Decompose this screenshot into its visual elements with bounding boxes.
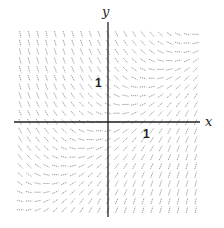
slope-segment xyxy=(157,77,163,78)
slope-segment xyxy=(184,59,190,62)
slope-segment xyxy=(132,137,136,142)
slope-segment xyxy=(79,165,85,168)
slope-segment xyxy=(19,84,21,90)
slope-segment xyxy=(97,155,102,159)
slope-segment xyxy=(132,129,137,133)
slope-segment xyxy=(18,154,22,159)
slope-segment xyxy=(114,94,120,97)
slope-segment xyxy=(88,93,92,98)
slope-segment xyxy=(44,146,49,150)
slope-segment xyxy=(124,172,127,178)
slope-segment xyxy=(54,93,57,99)
slope-segment xyxy=(46,49,48,55)
slope-segment xyxy=(140,68,146,71)
slope-segment xyxy=(159,128,162,133)
slope-segment xyxy=(149,50,154,54)
slope-segment xyxy=(186,198,188,204)
slope-segment xyxy=(97,67,100,72)
slope-segment xyxy=(54,66,56,72)
slope-segment xyxy=(167,85,172,89)
slope-segment xyxy=(158,41,163,45)
slope-segment xyxy=(87,148,93,149)
slope-segment xyxy=(132,40,136,45)
slope-segment xyxy=(194,102,197,108)
slope-segment xyxy=(158,50,164,53)
slope-segment xyxy=(142,163,145,169)
slope-segment xyxy=(193,67,198,71)
slope-segment xyxy=(37,57,39,63)
slope-segment xyxy=(133,163,136,169)
slope-segment xyxy=(19,93,21,99)
slope-segment xyxy=(62,102,65,107)
slope-segment xyxy=(28,40,30,46)
slope-segment xyxy=(194,93,197,98)
slope-segment xyxy=(63,58,65,64)
slope-segment xyxy=(158,32,163,36)
slope-segment xyxy=(89,58,92,64)
slope-segment xyxy=(63,66,65,72)
slope-segment xyxy=(160,189,162,195)
slope-segment xyxy=(158,102,163,106)
slope-segment xyxy=(79,111,84,115)
slope-segment xyxy=(123,137,128,141)
slope-segment xyxy=(98,207,101,213)
slope-segment xyxy=(72,58,74,64)
slope-segment xyxy=(141,50,146,54)
slope-segment xyxy=(114,104,120,105)
slope-segment xyxy=(63,40,65,46)
slope-segment xyxy=(53,208,58,212)
y-axis-label: y xyxy=(101,4,110,19)
slope-segment xyxy=(63,84,66,90)
slope-segment xyxy=(80,58,83,64)
slope-segment xyxy=(193,50,199,53)
slope-segment xyxy=(88,102,93,106)
slope-segment xyxy=(35,208,41,211)
slope-segment xyxy=(142,207,144,213)
slope-segment xyxy=(149,41,154,45)
slope-segment xyxy=(98,198,101,204)
slope-segment xyxy=(133,207,135,213)
slope-segment xyxy=(89,84,93,89)
slope-segment xyxy=(177,180,179,186)
slope-segment xyxy=(175,33,181,36)
slope-segment xyxy=(140,111,145,115)
slope-segment xyxy=(37,31,39,37)
slope-segment xyxy=(114,146,119,150)
slope-segment xyxy=(53,128,57,133)
slope-segment xyxy=(79,129,85,132)
slope-segment xyxy=(46,66,48,72)
slope-segment xyxy=(89,67,92,73)
slope-segment xyxy=(37,75,39,81)
slope-segment xyxy=(61,190,66,194)
slope-segment xyxy=(87,130,93,131)
slope-segment xyxy=(54,84,57,90)
slope-segment xyxy=(79,156,85,157)
slope-segment xyxy=(169,189,171,195)
slope-segment xyxy=(27,137,30,142)
slope-segment xyxy=(72,49,74,55)
slope-segment xyxy=(37,40,39,46)
slope-segment xyxy=(115,181,118,187)
slope-segment xyxy=(88,164,93,168)
slope-segment xyxy=(151,163,154,169)
slope-segment xyxy=(98,40,101,46)
slope-segment xyxy=(45,102,48,108)
slope-segment xyxy=(53,137,58,141)
slope-segment xyxy=(151,189,153,195)
slope-segment xyxy=(81,40,83,46)
slope-segment xyxy=(124,31,127,37)
slope-segment xyxy=(28,93,30,99)
slope-segment xyxy=(177,172,179,178)
slope-segment xyxy=(168,172,170,178)
slope-segment xyxy=(175,42,181,43)
slope-segment xyxy=(97,94,102,98)
slope-segment xyxy=(88,111,93,115)
slope-segment xyxy=(54,102,57,108)
slope-segment xyxy=(168,145,171,151)
slope-segment xyxy=(80,102,84,107)
slope-segment xyxy=(70,138,76,141)
slope-segment xyxy=(131,86,137,87)
slope-segment xyxy=(132,68,137,72)
slope-segment xyxy=(35,155,40,159)
slope-segment xyxy=(46,40,48,46)
